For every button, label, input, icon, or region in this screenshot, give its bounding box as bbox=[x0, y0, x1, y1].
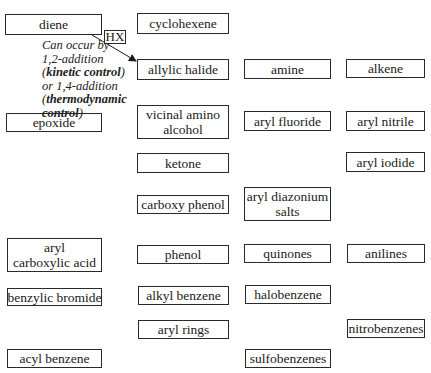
node-label: alkyl benzene bbox=[146, 288, 221, 303]
node-label: aryl diazonium bbox=[247, 189, 328, 204]
annotation-line: (thermodynamic bbox=[42, 93, 127, 107]
annotation-text: ) bbox=[121, 65, 125, 79]
node-label: aryl rings bbox=[158, 322, 209, 337]
node-label: alcohol bbox=[163, 122, 203, 137]
node-anilines: anilines bbox=[347, 244, 425, 263]
node-aryl-iodide: aryl iodide bbox=[346, 152, 425, 172]
annotation-line: (kinetic control) bbox=[42, 66, 127, 80]
node-alkene: alkene bbox=[346, 59, 425, 78]
node-acyl-benzene: acyl benzene bbox=[7, 349, 102, 368]
annotation-text: 1,2-addition bbox=[42, 52, 103, 66]
node-aryl-nitrile: aryl nitrile bbox=[346, 111, 425, 131]
node-allylic-halide: allylic halide bbox=[137, 59, 229, 80]
node-sulfobenzenes: sulfobenzenes bbox=[245, 349, 331, 368]
node-aryl-rings: aryl rings bbox=[138, 320, 229, 339]
node-benzylic-bromide: benzylic bromide bbox=[7, 288, 102, 306]
node-label: allylic halide bbox=[148, 62, 218, 77]
node-label: amine bbox=[271, 62, 304, 77]
node-label: aryl fluoride bbox=[254, 114, 321, 129]
annotation-text: or 1,4-addition bbox=[42, 79, 118, 93]
annotation-line: 1,2-addition bbox=[42, 53, 127, 67]
annotation-emphasis: kinetic control bbox=[46, 65, 121, 79]
node-label: salts bbox=[275, 204, 299, 219]
annotation-emphasis: thermodynamic bbox=[46, 92, 127, 106]
node-label: carboxylic acid bbox=[13, 255, 96, 270]
node-label: acyl benzene bbox=[19, 351, 89, 366]
node-aryl-diazonium-salts: aryl diazoniumsalts bbox=[244, 187, 331, 221]
node-label: quinones bbox=[263, 246, 312, 261]
annotation-text: Can occur by bbox=[42, 38, 109, 52]
node-label: alkene bbox=[368, 61, 403, 76]
node-halobenzene: halobenzene bbox=[245, 285, 331, 304]
node-phenol: phenol bbox=[137, 245, 229, 264]
node-label: ketone bbox=[165, 156, 201, 171]
node-diene: diene bbox=[5, 14, 102, 35]
node-carboxy-phenol: carboxy phenol bbox=[137, 195, 229, 214]
annotation-line: control) bbox=[42, 107, 127, 121]
node-amine: amine bbox=[244, 59, 331, 79]
annotation-text: ) bbox=[79, 106, 83, 120]
regiochemistry-annotation: Can occur by1,2-addition(kinetic control… bbox=[42, 39, 127, 121]
node-label: aryl nitrile bbox=[357, 114, 414, 129]
node-label: phenol bbox=[165, 247, 202, 262]
node-label: halobenzene bbox=[254, 287, 321, 302]
node-label: diene bbox=[39, 17, 68, 32]
node-label: cyclohexene bbox=[149, 16, 216, 31]
annotation-emphasis: control bbox=[42, 106, 79, 120]
node-label: aryl iodide bbox=[356, 155, 414, 170]
annotation-line: or 1,4-addition bbox=[42, 80, 127, 94]
node-label: anilines bbox=[365, 246, 407, 261]
node-nitrobenzenes: nitrobenzenes bbox=[347, 319, 425, 338]
node-cyclohexene: cyclohexene bbox=[137, 13, 229, 34]
node-quinones: quinones bbox=[244, 244, 331, 263]
node-aryl-carboxylic-acid: arylcarboxylic acid bbox=[7, 238, 102, 272]
node-label: nitrobenzenes bbox=[349, 321, 424, 336]
node-label: vicinal amino bbox=[146, 107, 220, 122]
node-ketone: ketone bbox=[137, 153, 229, 173]
node-alkyl-benzene: alkyl benzene bbox=[138, 286, 229, 305]
node-vicinal-amino-alcohol: vicinal aminoalcohol bbox=[137, 105, 229, 139]
node-aryl-fluoride: aryl fluoride bbox=[244, 111, 331, 131]
node-label: sulfobenzenes bbox=[250, 351, 326, 366]
node-label: aryl bbox=[44, 240, 65, 255]
node-label: benzylic bromide bbox=[7, 290, 101, 305]
annotation-line: Can occur by bbox=[42, 39, 127, 53]
node-label: carboxy phenol bbox=[141, 197, 225, 212]
